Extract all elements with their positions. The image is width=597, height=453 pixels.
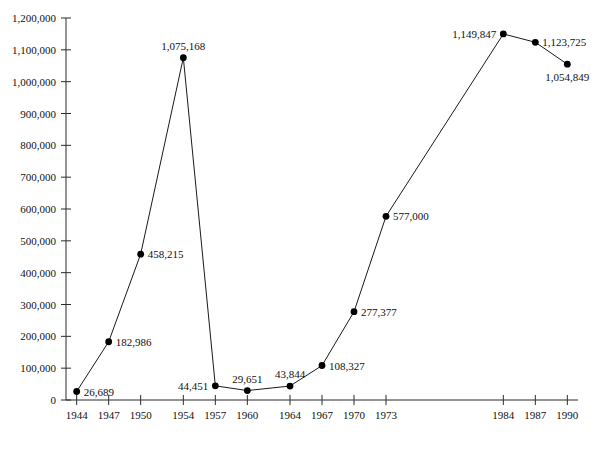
data-value-label: 577,000 (393, 210, 429, 222)
data-point-marker[interactable] (212, 382, 219, 389)
data-value-labels: 26,689182,986458,2151,075,16844,45129,65… (84, 28, 590, 398)
y-axis-tick-label: 600,000 (20, 203, 56, 215)
data-value-label: 43,844 (275, 368, 306, 380)
y-axis-tick-label: 100,000 (20, 362, 56, 374)
x-axis-tick-label: 1944 (66, 409, 89, 421)
data-point-marker[interactable] (319, 362, 326, 369)
x-axis-tick-label: 1967 (311, 409, 334, 421)
data-point-marker[interactable] (500, 31, 507, 38)
x-axis-tick-label: 1964 (279, 409, 302, 421)
y-axis-tick-label: 700,000 (20, 171, 56, 183)
data-value-label: 29,651 (232, 373, 262, 385)
data-point-marker[interactable] (351, 308, 358, 315)
x-axis-tick-label: 1954 (172, 409, 195, 421)
data-value-label: 44,451 (178, 380, 208, 392)
data-value-label: 458,215 (148, 248, 184, 260)
y-axis-tick-label: 800,000 (20, 139, 56, 151)
data-point-marker[interactable] (73, 388, 80, 395)
x-axis-tick-label: 1957 (204, 409, 227, 421)
data-point-marker[interactable] (137, 251, 144, 258)
x-axis-tick-label: 1970 (343, 409, 366, 421)
y-axis: 0100,000200,000300,000400,000500,000600,… (12, 12, 71, 406)
data-point-marker[interactable] (180, 54, 187, 61)
x-axis-tick-label: 1960 (236, 409, 259, 421)
data-point-marker[interactable] (105, 338, 112, 345)
data-point-marker[interactable] (564, 61, 571, 68)
y-axis-tick-label: 900,000 (20, 108, 56, 120)
data-point-marker[interactable] (287, 383, 294, 390)
data-value-label: 26,689 (84, 386, 115, 398)
data-point-marker[interactable] (383, 213, 390, 220)
line-chart: 0100,000200,000300,000400,000500,000600,… (0, 0, 597, 453)
x-axis: 1944194719501954195719601964196719701973… (66, 395, 579, 421)
x-axis-tick-label: 1950 (130, 409, 153, 421)
y-axis-tick-label: 1,200,000 (12, 12, 57, 24)
y-axis-tick-label: 400,000 (20, 267, 56, 279)
data-value-label: 1,123,725 (542, 36, 587, 48)
data-value-label: 182,986 (116, 336, 152, 348)
chart-container: 0100,000200,000300,000400,000500,000600,… (0, 0, 597, 453)
y-axis-tick-label: 1,100,000 (12, 44, 57, 56)
data-point-marker[interactable] (532, 39, 539, 46)
y-axis-tick-label: 300,000 (20, 299, 56, 311)
x-axis-tick-label: 1947 (98, 409, 121, 421)
x-axis-tick-label: 1984 (492, 409, 515, 421)
data-value-label: 1,075,168 (161, 40, 206, 52)
y-axis-tick-label: 500,000 (20, 235, 56, 247)
data-value-label: 277,377 (361, 306, 397, 318)
data-value-label: 1,054,849 (545, 71, 590, 83)
x-axis-tick-label: 1987 (524, 409, 547, 421)
y-axis-tick-label: 1,000,000 (12, 76, 57, 88)
y-axis-tick-label: 0 (51, 394, 57, 406)
x-axis-tick-label: 1973 (375, 409, 398, 421)
y-axis-tick-label: 200,000 (20, 330, 56, 342)
x-axis-tick-label: 1990 (556, 409, 579, 421)
data-point-marker[interactable] (244, 387, 251, 394)
data-value-label: 1,149,847 (452, 28, 497, 40)
data-value-label: 108,327 (329, 360, 365, 372)
